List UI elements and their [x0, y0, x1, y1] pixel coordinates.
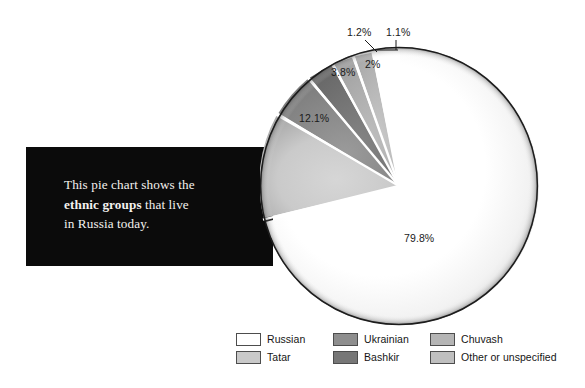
legend-label-chuvash: Chuvash	[461, 333, 503, 346]
legend-swatch-other	[430, 351, 455, 364]
legend-label-tatar: Tatar	[267, 351, 291, 364]
legend-item-ukrainian: Ukrainian	[333, 330, 430, 348]
legend-label-ukrainian: Ukrainian	[364, 333, 409, 346]
label-chuvash-pct: 1.2%	[347, 26, 371, 38]
legend-item-tatar: Tatar	[236, 348, 333, 366]
legend-label-bashkir: Bashkir	[364, 351, 399, 364]
legend-label-russian: Russian	[267, 333, 305, 346]
legend-item-bashkir: Bashkir	[333, 348, 430, 366]
label-ukrainian-pct: 3.8%	[331, 66, 355, 78]
label-russian-pct: 79.8%	[404, 232, 434, 244]
chart-figure: This pie chart shows the ethnic groups t…	[0, 0, 585, 388]
label-bashkir-pct: 2%	[365, 58, 380, 70]
legend-swatch-russian	[236, 333, 261, 346]
label-other-pct: 1.1%	[386, 26, 410, 38]
legend-swatch-tatar	[236, 351, 261, 364]
legend-swatch-ukrainian	[333, 333, 358, 346]
legend-item-chuvash: Chuvash	[430, 330, 557, 348]
label-tatar-pct: 12.1%	[299, 112, 329, 124]
legend-item-russian: Russian	[236, 330, 333, 348]
chart-legend: Russian Ukrainian Chuvash Tatar Bashkir …	[236, 330, 557, 366]
legend-swatch-bashkir	[333, 351, 358, 364]
legend-item-other: Other or unspecified	[430, 348, 557, 366]
legend-swatch-chuvash	[430, 333, 455, 346]
legend-label-other: Other or unspecified	[461, 351, 557, 364]
